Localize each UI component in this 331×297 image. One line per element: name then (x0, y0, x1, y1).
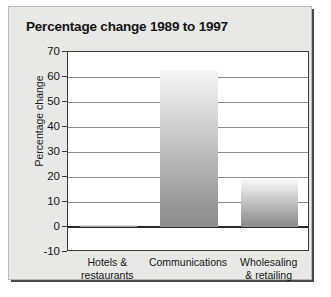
y-axis-tick-label: -10 (16, 245, 60, 257)
bar (241, 180, 298, 228)
y-axis-tick-label: 20 (16, 170, 60, 182)
bar (80, 225, 137, 228)
y-axis-tick-label: 50 (16, 95, 60, 107)
y-axis-tick-label: 60 (16, 70, 60, 82)
y-axis-tick-label: 0 (16, 220, 60, 232)
x-axis-tick-label: Hotels &restaurants (61, 256, 154, 282)
y-axis-tick-mark (62, 251, 67, 252)
y-axis-tick-label: 30 (16, 145, 60, 157)
chart-panel: Percentage change 1989 to 1997 Percentag… (8, 6, 312, 280)
chart-title: Percentage change 1989 to 1997 (26, 19, 228, 34)
x-axis-tick-label-line: Wholesaling (222, 256, 315, 269)
plot-area (67, 51, 309, 251)
x-axis-tick-label-line: Communications (142, 256, 235, 269)
y-axis-tick-label: 10 (16, 195, 60, 207)
x-axis-tick-label-line: & retailing (222, 269, 315, 282)
x-axis-tick-label-line: Hotels & (61, 256, 154, 269)
x-axis-tick-label: Wholesaling& retailing (222, 256, 315, 282)
x-axis-tick-label-line: restaurants (61, 269, 154, 282)
chart-figure: Percentage change 1989 to 1997 Percentag… (0, 0, 331, 297)
y-axis-tick-label: 40 (16, 120, 60, 132)
x-axis-tick-label: Communications (142, 256, 235, 269)
y-axis-tick-label: 70 (16, 45, 60, 57)
bar (160, 70, 217, 228)
